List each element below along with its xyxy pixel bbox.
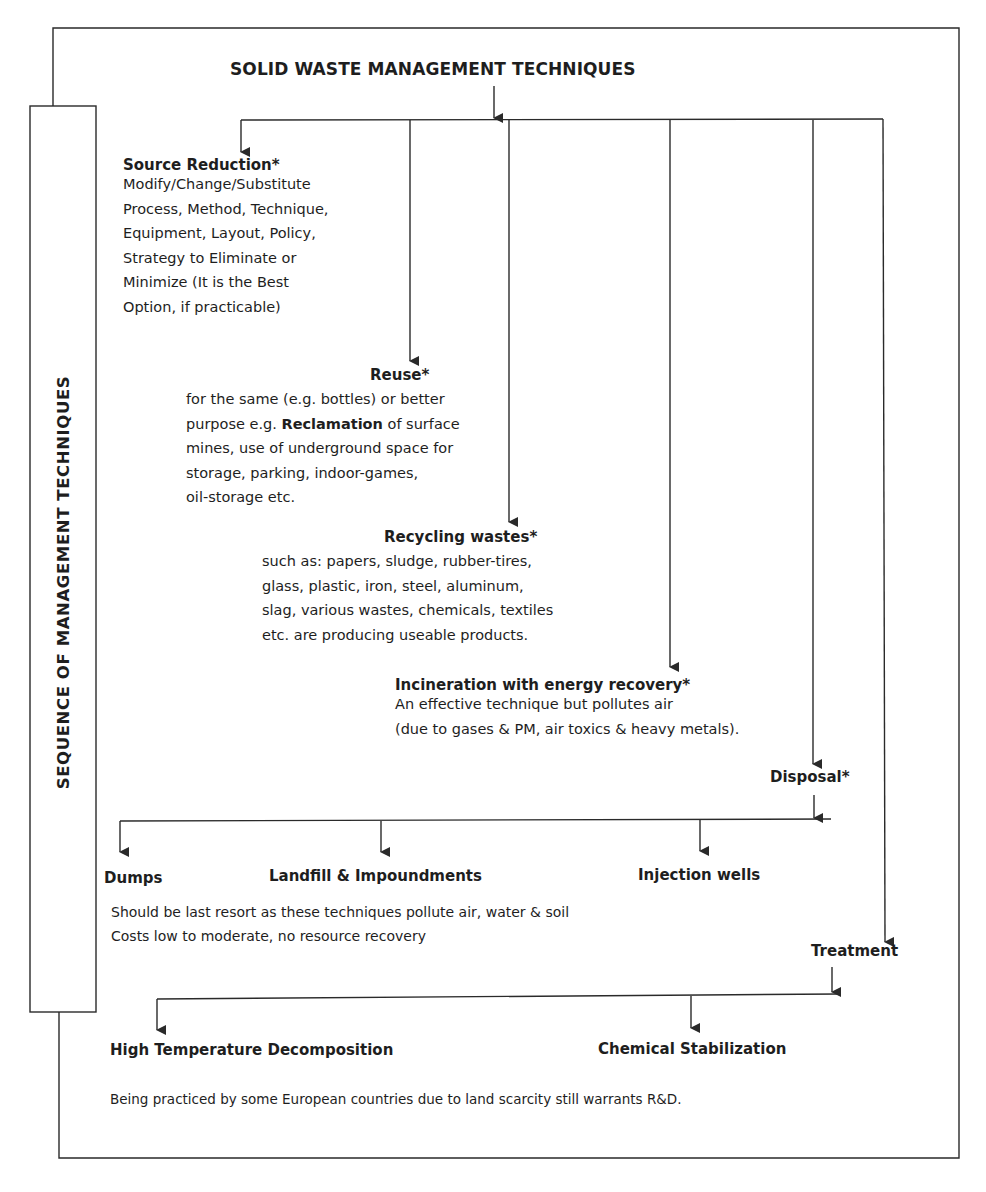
- incineration-line: (due to gases & PM, air toxics & heavy m…: [395, 717, 739, 742]
- treatment-heading: Treatment: [811, 942, 898, 960]
- recycling-line: glass, plastic, iron, steel, aluminum,: [262, 574, 553, 599]
- source-reduction-line: Option, if practicable): [123, 295, 328, 320]
- reuse-line-text: of surface: [383, 416, 460, 432]
- disposal-option-injection-wells: Injection wells: [638, 866, 760, 884]
- reclamation-emphasis: Reclamation: [281, 416, 382, 432]
- reuse-line: oil-storage etc.: [186, 485, 460, 510]
- reuse-line-text: purpose e.g.: [186, 416, 281, 432]
- disposal-option-dumps: Dumps: [104, 869, 162, 887]
- disposal-notes: Should be last resort as these technique…: [111, 900, 569, 948]
- treatment-option-high-temperature: High Temperature Decomposition: [110, 1041, 393, 1059]
- reuse-line: mines, use of underground space for: [186, 436, 460, 461]
- reuse-heading: Reuse*: [370, 366, 429, 384]
- source-reduction-line: Modify/Change/Substitute: [123, 172, 328, 197]
- treatment-option-chemical-stabilization: Chemical Stabilization: [598, 1040, 786, 1058]
- disposal-note: Costs low to moderate, no resource recov…: [111, 924, 569, 948]
- reuse-node: for the same (e.g. bottles) or better pu…: [186, 387, 460, 510]
- diagram-title: SOLID WASTE MANAGEMENT TECHNIQUES: [230, 59, 636, 79]
- source-reduction-line: Process, Method, Technique,: [123, 197, 328, 222]
- disposal-option-landfill: Landfill & Impoundments: [269, 867, 482, 885]
- source-reduction-line: Strategy to Eliminate or: [123, 246, 328, 271]
- reuse-line: purpose e.g. Reclamation of surface: [186, 412, 460, 437]
- recycling-line: etc. are producing useable products.: [262, 623, 553, 648]
- treatment-note: Being practiced by some European countri…: [110, 1087, 682, 1111]
- source-reduction-node: Source Reduction* Modify/Change/Substitu…: [123, 156, 328, 319]
- disposal-note: Should be last resort as these technique…: [111, 900, 569, 924]
- incineration-line: An effective technique but pollutes air: [395, 692, 739, 717]
- reuse-line: for the same (e.g. bottles) or better: [186, 387, 460, 412]
- sequence-side-label: SEQUENCE OF MANAGEMENT TECHNIQUES: [54, 333, 73, 833]
- recycling-node: such as: papers, sludge, rubber-tires, g…: [262, 549, 553, 647]
- source-reduction-line: Equipment, Layout, Policy,: [123, 221, 328, 246]
- reuse-line: storage, parking, indoor-games,: [186, 461, 460, 486]
- recycling-line: slag, various wastes, chemicals, textile…: [262, 598, 553, 623]
- recycling-heading: Recycling wastes*: [384, 528, 537, 546]
- recycling-line: such as: papers, sludge, rubber-tires,: [262, 549, 553, 574]
- disposal-heading: Disposal*: [770, 768, 850, 786]
- source-reduction-line: Minimize (It is the Best: [123, 270, 328, 295]
- incineration-node: Incineration with energy recovery* An ef…: [395, 676, 739, 741]
